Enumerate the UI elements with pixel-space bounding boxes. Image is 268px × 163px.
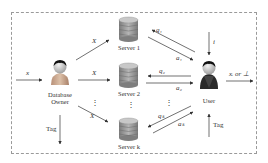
database-owner-label: Database Owner bbox=[43, 91, 77, 106]
ellipsis-owner-side: ⋮ bbox=[91, 99, 99, 107]
server-2-icon bbox=[119, 63, 138, 88]
ellipsis-servers: ⋮ bbox=[127, 101, 135, 109]
label-user-output: xᵢ or ⊥ bbox=[229, 71, 249, 78]
server-k-label: Server k bbox=[112, 143, 146, 150]
label-owner-server-1: X bbox=[92, 38, 96, 45]
server-1-label: Server 1 bbox=[112, 44, 146, 51]
server-k-icon bbox=[119, 118, 138, 141]
database-owner-label-line1: Database bbox=[43, 91, 77, 98]
label-owner-server-2: X bbox=[92, 70, 96, 77]
server-1-icon bbox=[119, 17, 138, 42]
label-ak: aₖ bbox=[178, 121, 185, 128]
ellipsis-user-side: ⋮ bbox=[165, 99, 173, 107]
server-2-label: Server 2 bbox=[112, 90, 146, 97]
arrow-a1 bbox=[148, 37, 193, 60]
label-a1: a₁ bbox=[176, 55, 182, 62]
label-index-in: i bbox=[213, 39, 215, 46]
label-owner-server-k: X bbox=[90, 113, 94, 120]
user-label: User bbox=[194, 97, 224, 104]
label-owner-tag: Tag bbox=[46, 126, 56, 133]
user-icon bbox=[200, 61, 218, 89]
label-q1: q₁ bbox=[156, 27, 162, 34]
label-qk: qₖ bbox=[158, 113, 165, 120]
label-user-tag: Tag bbox=[213, 122, 223, 129]
database-owner-icon bbox=[51, 60, 69, 85]
diagram-canvas bbox=[0, 0, 268, 163]
database-owner-label-line2: Owner bbox=[43, 98, 77, 105]
label-q2: q₂ bbox=[159, 68, 165, 75]
label-x-in: x bbox=[26, 70, 29, 77]
label-a2: a₂ bbox=[176, 85, 182, 92]
